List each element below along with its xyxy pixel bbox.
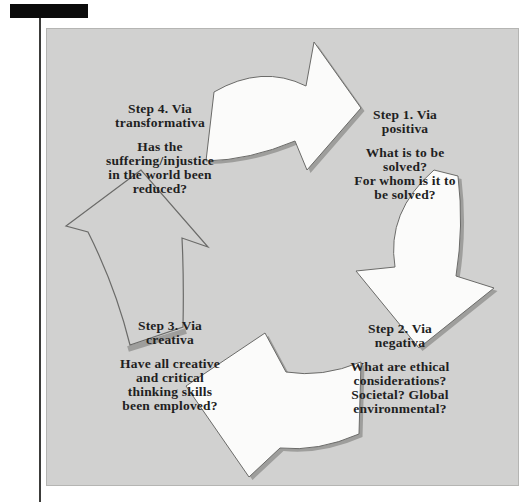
step1-question-line2: solved?	[354, 160, 455, 174]
step2-title-line2: negativa	[351, 336, 450, 350]
step3-question-line2: and critical	[120, 371, 220, 385]
step1-question-line1: What is to be	[354, 146, 455, 160]
step4-text-block: Step 4. Via transformativa Has the suffe…	[106, 102, 214, 196]
step3-title-line1: Step 3. Via	[120, 319, 220, 333]
step2-question-line1: What are ethical	[351, 360, 450, 374]
step1-title-line2: positiva	[354, 122, 455, 136]
step3-title-line2: creativa	[120, 333, 220, 347]
step3-question: Have all creative and critical thinking …	[120, 357, 220, 413]
step2-question: What are ethical considerations? Societa…	[351, 360, 450, 416]
step2-question-line2: considerations?	[351, 374, 450, 388]
step1-question: What is to be solved? For whom is it to …	[354, 146, 455, 202]
step4-question: Has the suffering/injustice in the world…	[106, 140, 214, 196]
step1-question-line3: For whom is it to	[354, 174, 455, 188]
step2-text-block: Step 2. Via negativa What are ethical co…	[351, 322, 450, 416]
step3-question-line1: Have all creative	[120, 357, 220, 371]
step4-question-line2: suffering/injustice	[106, 154, 214, 168]
step3-text-block: Step 3. Via creativa Have all creative a…	[120, 319, 220, 413]
step2-question-line4: environmental?	[351, 402, 450, 416]
cycle-arrows	[46, 28, 519, 486]
step2-question-line3: Societal? Global	[351, 388, 450, 402]
top-arrow-pointing-right-icon	[206, 42, 365, 173]
black-bar	[10, 4, 88, 18]
step2-title: Step 2. Via negativa	[351, 322, 450, 350]
step4-question-line1: Has the	[106, 140, 214, 154]
step4-title: Step 4. Via transformativa	[106, 102, 214, 130]
step1-title: Step 1. Via positiva	[354, 108, 455, 136]
step3-question-line4: been emploved?	[120, 399, 220, 413]
page-margin-rule	[39, 18, 41, 502]
step1-title-line1: Step 1. Via	[354, 108, 455, 122]
step1-question-line4: be solved?	[354, 188, 455, 202]
step4-question-line4: reduced?	[106, 182, 214, 196]
step2-title-line1: Step 2. Via	[351, 322, 450, 336]
step3-title: Step 3. Via creativa	[120, 319, 220, 347]
scanned-page: Step 1. Via positiva What is to be solve…	[0, 0, 525, 504]
step3-question-line3: thinking skills	[120, 385, 220, 399]
step4-title-line1: Step 4. Via	[106, 102, 214, 116]
step4-question-line3: in the world been	[106, 168, 214, 182]
step4-title-line2: transformativa	[106, 116, 214, 130]
step1-text-block: Step 1. Via positiva What is to be solve…	[354, 108, 455, 202]
